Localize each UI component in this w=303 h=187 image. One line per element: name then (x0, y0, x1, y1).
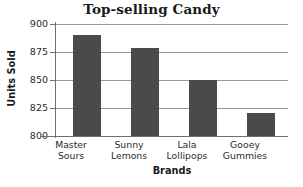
y-tick-label-825: 825 (18, 103, 48, 113)
y-tick-label-900: 900 (18, 19, 48, 29)
x-tick-label-lala-lollipops-line2: Lollipops (156, 150, 218, 161)
x-tick-label-lala-lollipops: Lala Lollipops (156, 139, 218, 161)
x-tick-label-lala-lollipops-line1: Lala (156, 139, 218, 150)
x-tick-label-gooey-gummies: Gooey Gummies (214, 139, 276, 161)
y-tick-label-875-wrap: 875 (14, 47, 48, 57)
y-tick-label-850-wrap: 850 (14, 75, 48, 85)
bar-master-sours (73, 35, 101, 136)
x-tick-label-gooey-gummies-line2: Gummies (214, 150, 276, 161)
x-tick-label-sunny-lemons: Sunny Lemons (98, 139, 160, 161)
x-tick-label-master-sours-line2: Sours (40, 150, 102, 161)
y-axis-title: Units Sold (6, 44, 17, 114)
y-tick-label-850: 850 (18, 75, 48, 85)
x-tick-label-master-sours-line1: Master (40, 139, 102, 150)
bar-lala-lollipops (189, 80, 217, 136)
x-axis-title: Brands (56, 165, 288, 176)
gridline-900 (56, 24, 288, 25)
x-tick-label-gooey-gummies-line1: Gooey (214, 139, 276, 150)
y-tick-label-875: 875 (18, 47, 48, 57)
x-tick-label-sunny-lemons-line2: Lemons (98, 150, 160, 161)
x-axis-line (40, 136, 288, 137)
x-tick-label-master-sours: Master Sours (40, 139, 102, 161)
x-tick-label-sunny-lemons-line1: Sunny (98, 139, 160, 150)
bar-gooey-gummies (247, 113, 275, 137)
bar-chart: Top-selling Candy 900 875 850 825 800 Ma… (0, 0, 303, 187)
chart-title: Top-selling Candy (0, 1, 303, 17)
y-tick-label-900-wrap: 900 (14, 19, 48, 29)
plot-area (56, 24, 288, 136)
bar-sunny-lemons (131, 48, 159, 137)
y-tick-label-825-wrap: 825 (14, 103, 48, 113)
